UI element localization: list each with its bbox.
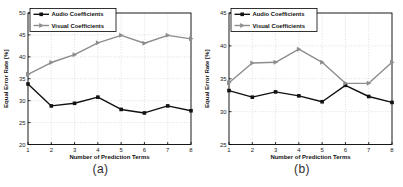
x-axis-label: Number of Prediction Terms: [69, 154, 150, 160]
x-tick-label: 4: [297, 147, 301, 153]
x-tick-label: 2: [251, 147, 254, 153]
series-marker-square: [26, 82, 30, 86]
y-axis-label: Equal Error Rate [%]: [204, 50, 210, 108]
x-tick-label: 1: [26, 147, 29, 153]
legend: Audio CoefficientsVisual Coefficients: [231, 9, 317, 32]
figure: 2025303540455012345678Number of Predicti…: [0, 0, 403, 187]
x-tick-label: 4: [96, 147, 100, 153]
y-tick-label: 25: [19, 120, 26, 126]
y-tick-label: 40: [19, 54, 26, 60]
x-tick-label: 5: [120, 147, 124, 153]
y-tick-label: 45: [220, 10, 227, 16]
legend-entry-label: Audio Coefficients: [253, 11, 306, 17]
y-tick-label: 20: [19, 142, 26, 148]
x-axis-label: Number of Prediction Terms: [270, 154, 351, 160]
series-marker-square: [96, 95, 100, 99]
x-tick-label: 3: [274, 147, 278, 153]
series-marker-square: [250, 95, 254, 99]
y-tick-label: 40: [220, 43, 227, 49]
series-marker-square: [49, 104, 53, 108]
x-tick-label: 8: [189, 147, 193, 153]
series-marker-square: [189, 109, 193, 113]
series-marker-square: [39, 13, 43, 17]
x-tick-label: 2: [50, 147, 53, 153]
caption-b: (b): [201, 162, 403, 176]
caption-a: (a): [0, 162, 201, 176]
x-tick-label: 8: [390, 147, 394, 153]
y-tick-label: 35: [220, 76, 227, 82]
line-chart-a: 2025303540455012345678Number of Predicti…: [0, 0, 201, 187]
series-marker-square: [274, 90, 278, 94]
x-tick-label: 7: [166, 147, 169, 153]
chart-panel-a: 2025303540455012345678Number of Predicti…: [0, 0, 201, 187]
x-tick-label: 5: [321, 147, 325, 153]
line-chart-b: 253035404512345678Number of Prediction T…: [201, 0, 403, 187]
y-tick-label: 30: [220, 109, 227, 115]
series-marker-square: [390, 101, 394, 105]
series-marker-square: [143, 111, 147, 115]
series-marker-square: [227, 89, 231, 93]
legend-entry-label: Visual Coefficients: [253, 23, 306, 29]
series-marker-square: [297, 94, 301, 98]
x-tick-label: 6: [143, 147, 147, 153]
y-tick-label: 25: [220, 142, 227, 148]
y-tick-label: 35: [19, 76, 26, 82]
series-marker-square: [367, 95, 371, 99]
series-marker-square: [320, 100, 324, 104]
x-tick-label: 1: [227, 147, 230, 153]
series-marker-square: [73, 101, 77, 105]
x-tick-label: 3: [73, 147, 77, 153]
y-tick-label: 30: [19, 98, 26, 104]
y-tick-label: 50: [19, 10, 26, 16]
legend-entry-label: Visual Coefficients: [52, 23, 105, 29]
series-marker-square: [240, 13, 244, 17]
series-marker-square: [166, 104, 170, 108]
legend: Audio CoefficientsVisual Coefficients: [30, 9, 116, 32]
x-tick-label: 6: [344, 147, 348, 153]
y-tick-label: 45: [19, 32, 26, 38]
legend-entry-label: Audio Coefficients: [52, 11, 105, 17]
series-marker-square: [119, 108, 123, 112]
x-tick-label: 7: [367, 147, 370, 153]
chart-panel-b: 253035404512345678Number of Prediction T…: [201, 0, 403, 187]
y-axis-label: Equal Error Rate [%]: [3, 50, 9, 108]
